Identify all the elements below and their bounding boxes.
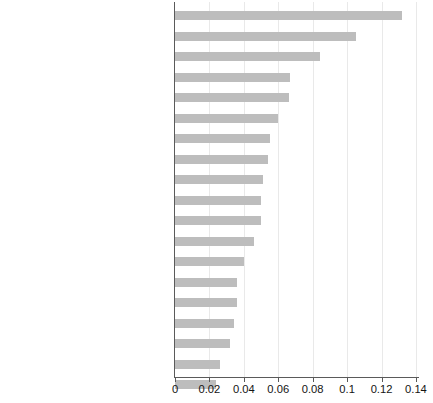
bar [175, 93, 289, 102]
x-tick-label: 0.02 [199, 383, 221, 395]
bar [175, 134, 270, 143]
bar [175, 257, 244, 266]
bar [175, 237, 254, 246]
bar [175, 298, 237, 307]
bar [175, 175, 263, 184]
x-tick-label: 0.12 [371, 383, 393, 395]
bar [175, 73, 290, 82]
gridline [347, 2, 348, 378]
bar [175, 114, 278, 123]
x-tick-mark [313, 378, 314, 382]
bar [175, 360, 220, 369]
x-tick-label: 0.06 [267, 383, 289, 395]
bar [175, 11, 402, 20]
x-tick-mark [347, 378, 348, 382]
x-tick-mark [175, 378, 176, 382]
x-tick-mark [416, 378, 417, 382]
bar [175, 32, 356, 41]
bar [175, 155, 268, 164]
bar [175, 52, 320, 61]
plot-area: Digital business analysisSocial Media sk… [0, 0, 433, 378]
x-tick-mark [209, 378, 210, 382]
gridline [416, 2, 417, 378]
bar [175, 319, 234, 328]
bar [175, 278, 237, 287]
bar [175, 216, 261, 225]
bar [175, 196, 261, 205]
x-tick-mark [244, 378, 245, 382]
bar [175, 339, 230, 348]
x-tick-label: 0 [172, 383, 178, 395]
x-tick-label: 0.04 [233, 383, 255, 395]
x-tick-label: 0.1 [339, 383, 355, 395]
x-tick-mark [278, 378, 279, 382]
gridline [382, 2, 383, 378]
x-tick-label: 0.08 [302, 383, 324, 395]
x-tick-mark [382, 378, 383, 382]
x-axis-ticks: 00.020.040.060.080.10.120.14 [0, 378, 433, 403]
x-tick-label: 0.14 [405, 383, 427, 395]
horizontal-bar-chart: Digital business analysisSocial Media sk… [0, 0, 433, 403]
